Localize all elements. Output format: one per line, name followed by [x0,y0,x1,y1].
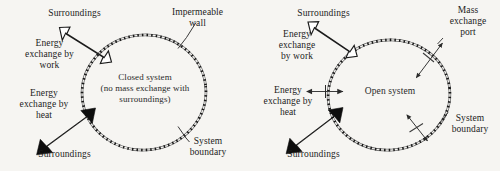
closed-surroundings-top-label: Surroundings [22,8,127,19]
closed-heat-label: Energy exchange by heat [4,88,84,122]
open-work-label: Energy exchange by work [258,29,336,63]
closed-system-label: Closed system (no mass exchange with sur… [84,72,206,104]
open-system-boundary-label: System boundary [440,113,500,135]
mass-exchange-port-label: Mass exchange port [437,5,499,39]
open-heat-label: Energy exchange by heat [248,85,328,119]
impermeable-wall-label: Impermeable wall [155,7,240,29]
thermodynamic-systems-figure: Surroundings Energy exchange by work Ene… [0,0,500,171]
closed-system-boundary-label: System boundary [172,136,244,158]
open-system-label: Open system [350,86,430,97]
closed-surroundings-bottom-label: Surroundings [12,149,117,160]
open-surroundings-bottom-label: Surroundings [261,149,366,160]
closed-work-label: Energy exchange by work [7,38,92,72]
open-surroundings-top-label: Surroundings [271,8,376,19]
